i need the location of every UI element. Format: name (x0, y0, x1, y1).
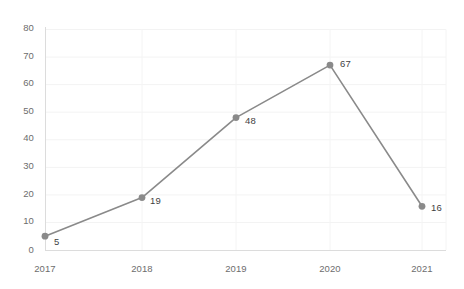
data-point-label-2017: 5 (54, 236, 59, 247)
data-point-marker[interactable] (327, 62, 334, 69)
series-markers (42, 62, 426, 240)
chart-canvas (0, 0, 464, 289)
horizontal-gridlines (45, 30, 446, 223)
y-tick-label-70: 70 (4, 50, 34, 61)
data-point-marker[interactable] (42, 233, 49, 240)
data-point-marker[interactable] (233, 114, 240, 121)
data-point-label-2020: 67 (340, 58, 351, 69)
y-tick-label-40: 40 (4, 132, 34, 143)
y-tick-label-60: 60 (4, 77, 34, 88)
y-tick-label-20: 20 (4, 188, 34, 199)
y-tick-label-80: 80 (4, 22, 34, 33)
x-tick-label-2021: 2021 (392, 263, 452, 274)
x-tick-label-2020: 2020 (300, 263, 360, 274)
y-tick-label-10: 10 (4, 215, 34, 226)
x-tick-label-2019: 2019 (206, 263, 266, 274)
x-tick-label-2018: 2018 (112, 263, 172, 274)
y-tick-label-30: 30 (4, 160, 34, 171)
y-tick-label-0: 0 (4, 244, 34, 255)
data-point-label-2019: 48 (245, 115, 256, 126)
x-tick-label-2017: 2017 (15, 263, 75, 274)
data-point-marker[interactable] (139, 194, 146, 201)
data-point-label-2018: 19 (150, 195, 161, 206)
y-tick-label-50: 50 (4, 105, 34, 116)
series-line (45, 65, 422, 236)
data-point-label-2021: 16 (431, 202, 442, 213)
line-chart: 80 70 60 50 40 30 20 10 0 2017 2018 2019… (0, 0, 464, 289)
data-point-marker[interactable] (419, 203, 426, 210)
